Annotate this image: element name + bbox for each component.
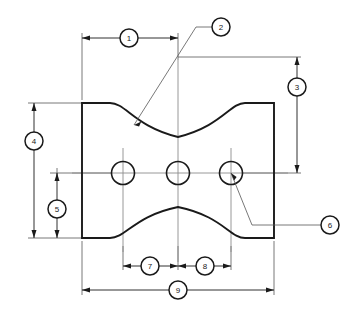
arrow-dim9-right xyxy=(266,288,274,293)
arrow-dim7-right xyxy=(170,264,178,269)
balloon-4[interactable]: 4 xyxy=(25,132,43,150)
arrow-dim7-left xyxy=(123,264,131,269)
extension-lines xyxy=(28,33,301,295)
arrow-dim3-bottom xyxy=(295,165,300,173)
balloon-9[interactable]: 9 xyxy=(169,281,187,299)
engineering-drawing-canvas: 1 2 3 4 5 6 7 xyxy=(0,0,361,309)
dimension-lines xyxy=(32,36,300,293)
balloon-8[interactable]: 8 xyxy=(196,257,214,275)
balloon-6-label: 6 xyxy=(328,221,333,230)
balloon-2-label: 2 xyxy=(219,23,224,32)
balloon-1[interactable]: 1 xyxy=(120,29,138,47)
arrow-dim5-top xyxy=(55,173,60,181)
arrow-dim1-left xyxy=(82,36,90,41)
arrow-dim5-bottom xyxy=(55,230,60,238)
balloon-8-label: 8 xyxy=(203,262,208,271)
balloon-5-label: 5 xyxy=(55,205,60,214)
arrow-dim8-left xyxy=(178,264,186,269)
balloon-5[interactable]: 5 xyxy=(48,200,66,218)
technical-drawing-page: 1 2 3 4 5 6 7 xyxy=(0,0,361,309)
balloon-7-label: 7 xyxy=(148,262,153,271)
balloon-7[interactable]: 7 xyxy=(141,257,159,275)
arrow-leader-2 xyxy=(134,122,141,127)
balloon-1-label: 1 xyxy=(127,34,132,43)
arrow-leader-6 xyxy=(231,173,237,180)
balloon-3[interactable]: 3 xyxy=(288,78,306,96)
arrow-dim3-top xyxy=(295,57,300,65)
arrow-dim1-right xyxy=(170,36,178,41)
arrow-dim9-left xyxy=(82,288,90,293)
arrow-dim8-right xyxy=(223,264,231,269)
balloon-2[interactable]: 2 xyxy=(212,18,230,36)
balloons-group: 1 2 3 4 5 6 7 xyxy=(25,18,339,299)
balloon-4-label: 4 xyxy=(32,137,37,146)
balloon-3-label: 3 xyxy=(295,83,300,92)
leader-line-6 xyxy=(231,173,321,225)
balloon-6[interactable]: 6 xyxy=(321,216,339,234)
leader-line-2 xyxy=(134,27,212,125)
arrow-dim4-top xyxy=(32,103,37,111)
balloon-9-label: 9 xyxy=(176,286,181,295)
arrow-dim4-bottom xyxy=(32,230,37,238)
